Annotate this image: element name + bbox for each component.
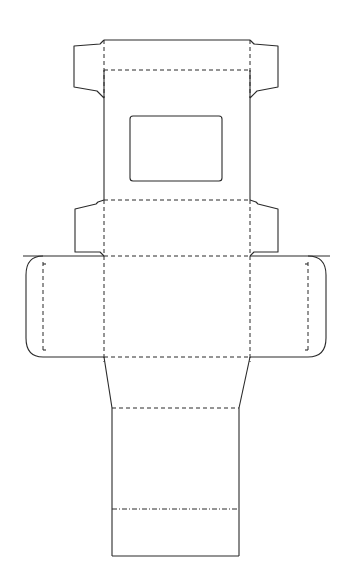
box-dieline-diagram [0, 0, 342, 583]
main-column [104, 40, 250, 200]
side-right-rounded-flap [308, 256, 326, 357]
middle-left-flap [75, 200, 104, 256]
middle-right-flap [250, 200, 278, 256]
top-right-flap [250, 40, 278, 98]
side-left-rounded-flap [26, 256, 43, 357]
top-left-flap [74, 40, 104, 98]
taper-right-edge [239, 357, 250, 408]
display-window [130, 116, 222, 181]
taper-left-edge [104, 357, 112, 408]
